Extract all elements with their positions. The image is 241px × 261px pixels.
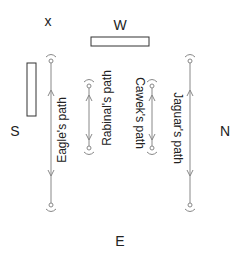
jaguar-path-line: [185, 55, 195, 212]
west-label: W: [113, 18, 126, 32]
rabinal-path-label: Rabinal's path: [101, 70, 113, 146]
eagle-path-label: Eagle's path: [56, 97, 68, 163]
cawek-path-label: Cawek's path: [134, 77, 146, 149]
south-label: S: [10, 124, 19, 138]
cawek-path-line: [147, 80, 157, 155]
rabinal-path-line: [84, 80, 94, 155]
east-label: E: [115, 234, 124, 248]
diagram-canvas: [0, 0, 241, 261]
x-label: x: [45, 14, 52, 28]
north-label: N: [220, 124, 230, 138]
jaguar-path-label: Jaguar's path: [172, 92, 184, 164]
south-rectangle: [27, 63, 36, 116]
west-rectangle: [91, 37, 149, 46]
